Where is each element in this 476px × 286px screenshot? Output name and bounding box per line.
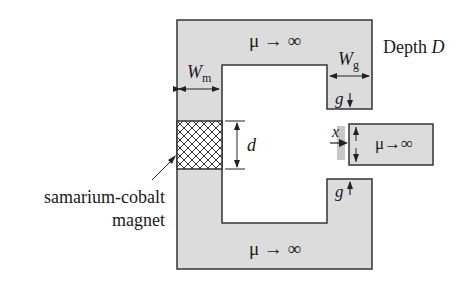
core-top-mu-label: μ → ∞ bbox=[249, 30, 301, 51]
magnet-label-line1: samarium-cobalt bbox=[44, 187, 165, 207]
plunger-mu-label: μ→∞ bbox=[375, 134, 413, 153]
d-label: d bbox=[247, 135, 257, 155]
magnetic-circuit-diagram: μ → ∞ μ → ∞ μ→∞ Wm Wg d x g g Depth D sa… bbox=[0, 0, 476, 286]
samarium-cobalt-magnet bbox=[177, 121, 222, 169]
magnet-label-line2: magnet bbox=[112, 210, 165, 230]
g-bottom-label: g bbox=[335, 182, 344, 201]
depth-label: Depth D bbox=[383, 37, 445, 57]
core-bottom-mu-label: μ → ∞ bbox=[249, 238, 301, 259]
g-top-label: g bbox=[335, 89, 344, 108]
x-label: x bbox=[331, 123, 339, 140]
